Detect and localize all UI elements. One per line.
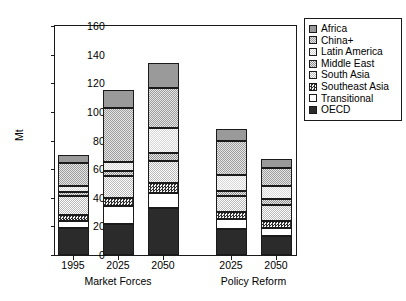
legend-swatch-icon [309, 94, 317, 102]
legend-item[interactable]: Africa [309, 23, 396, 35]
bar-segment [148, 183, 179, 193]
y-axis-tick-label: 160 [75, 20, 105, 32]
legend-item-label: Transitional [321, 93, 373, 105]
bar-segment [261, 205, 292, 221]
y-axis-tick-label: 140 [75, 49, 105, 61]
bar-segment [216, 129, 247, 140]
bar-segment [58, 196, 89, 215]
y-axis-tick-mark [51, 198, 55, 199]
y-axis-tick-mark [51, 55, 55, 56]
legend-swatch-icon [309, 83, 317, 91]
legend-item[interactable]: OECD [309, 104, 396, 116]
bar-segment [148, 63, 179, 87]
y-axis-tick-mark [51, 255, 55, 256]
stacked-bar [216, 26, 247, 255]
y-axis-tick-mark [51, 141, 55, 142]
x-axis-tick-mark [118, 256, 119, 260]
bar-segment [103, 198, 134, 207]
x-axis-tick-label: 2050 [151, 259, 174, 271]
bar-segment [148, 161, 179, 184]
bar-segment [261, 236, 292, 255]
bar-segment [261, 228, 292, 237]
bar-segment [103, 206, 134, 223]
bar-segment [58, 186, 89, 192]
bar-segment [148, 153, 179, 160]
bar-segment [103, 176, 134, 197]
y-axis-tick-mark [51, 83, 55, 84]
bar-segment [261, 159, 292, 168]
bar-segment [58, 192, 89, 196]
y-axis-tick-mark [51, 112, 55, 113]
legend-item-label: Southeast Asia [321, 81, 389, 93]
bar-segment [216, 212, 247, 219]
y-axis-tick-mark [51, 169, 55, 170]
x-axis-tick-mark [73, 256, 74, 260]
bar-segment [103, 224, 134, 255]
legend-item-label: OECD [321, 104, 350, 116]
legend-swatch-icon [309, 36, 317, 44]
bar-segment [148, 88, 179, 128]
legend: AfricaChina+Latin AmericaMiddle EastSout… [304, 18, 402, 121]
bar-segment [216, 219, 247, 229]
legend-item-label: China+ [321, 35, 354, 47]
x-axis-tick-mark [276, 256, 277, 260]
bar-segment [216, 196, 247, 212]
legend-swatch-icon [309, 106, 317, 114]
stacked-bar [103, 26, 134, 255]
y-axis-tick-mark [51, 226, 55, 227]
bar-segment [261, 221, 292, 228]
legend-item[interactable]: China+ [309, 35, 396, 47]
bar-segment [103, 162, 134, 171]
bar-segment [103, 108, 134, 162]
x-axis-group-label: Market Forces [84, 275, 151, 287]
y-axis-tick-label: 100 [75, 106, 105, 118]
stacked-bar [148, 26, 179, 255]
legend-item-label: South Asia [321, 69, 370, 81]
legend-item[interactable]: South Asia [309, 69, 396, 81]
bar-segment [261, 186, 292, 199]
legend-swatch-icon [309, 71, 317, 79]
bar-segment [261, 199, 292, 205]
x-axis-tick-mark [231, 256, 232, 260]
bar-segment [103, 90, 134, 107]
bar-segment [261, 168, 292, 187]
y-axis-tick-label: 80 [75, 135, 105, 147]
legend-swatch-icon [309, 48, 317, 56]
y-axis-tick-label: 120 [75, 77, 105, 89]
bar-segment [148, 128, 179, 154]
bar-segment [148, 193, 179, 207]
legend-item-label: Middle East [321, 58, 374, 70]
y-axis-label: Mt [13, 129, 25, 141]
x-axis-tick-label: 2050 [264, 259, 287, 271]
bar-segment [103, 171, 134, 177]
x-axis-tick-label: 2025 [219, 259, 242, 271]
bar-segment [216, 229, 247, 255]
bar-segment [58, 155, 89, 164]
x-axis-tick-mark [163, 256, 164, 260]
legend-item[interactable]: Transitional [309, 93, 396, 105]
x-axis-tick-label: 2025 [106, 259, 129, 271]
x-axis-tick-label: 1995 [61, 259, 84, 271]
legend-item[interactable]: Southeast Asia [309, 81, 396, 93]
bar-segment [148, 208, 179, 255]
bar-segment [58, 215, 89, 221]
bar-segment [216, 175, 247, 191]
x-axis-group-label: Policy Reform [221, 275, 286, 287]
chart-figure: Mt AfricaChina+Latin AmericaMiddle EastS… [0, 0, 406, 301]
bar-segment [58, 228, 89, 255]
bar-segment [216, 141, 247, 175]
legend-swatch-icon [309, 60, 317, 68]
legend-item[interactable]: Middle East [309, 58, 396, 70]
bar-segment [216, 191, 247, 197]
stacked-bar [261, 26, 292, 255]
bar-segment [58, 163, 89, 186]
bar-segment [58, 221, 89, 228]
y-axis-tick-mark [51, 26, 55, 27]
legend-item[interactable]: Latin America [309, 46, 396, 58]
legend-item-label: Africa [321, 23, 347, 35]
legend-swatch-icon [309, 25, 317, 33]
legend-item-label: Latin America [321, 46, 383, 58]
